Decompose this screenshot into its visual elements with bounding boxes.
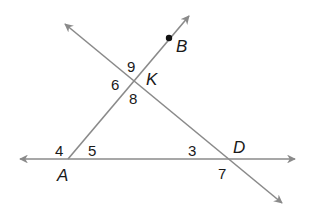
point-label-b: B	[176, 38, 187, 55]
angle-label-7: 7	[218, 166, 226, 181]
angle-label-9: 9	[127, 59, 135, 74]
angle-label-6: 6	[111, 77, 119, 92]
geometry-diagram: B K A D 9 6 8 4 5 3 7	[0, 0, 313, 210]
point-label-a: A	[57, 167, 68, 184]
angle-label-8: 8	[129, 91, 137, 106]
point-label-d: D	[233, 139, 245, 156]
angle-label-3: 3	[188, 143, 196, 158]
angle-label-4: 4	[55, 143, 63, 158]
point-label-k: K	[146, 71, 157, 88]
angle-label-5: 5	[88, 143, 96, 158]
line-kd	[65, 24, 282, 203]
point-b-dot	[166, 35, 172, 41]
diagram-lines	[0, 0, 313, 210]
